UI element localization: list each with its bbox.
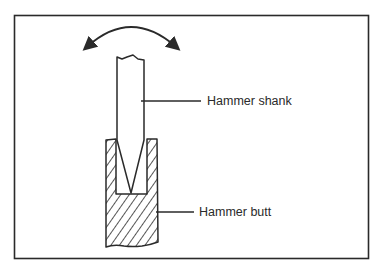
hammer-shank-label: Hammer shank <box>207 94 292 108</box>
hammer-butt-label: Hammer butt <box>199 205 271 219</box>
hammer-shank <box>117 55 144 193</box>
diagram-frame <box>15 16 369 259</box>
double-headed-curved-arrow-icon <box>88 27 175 46</box>
hammer-shank-butt-diagram <box>0 0 380 267</box>
